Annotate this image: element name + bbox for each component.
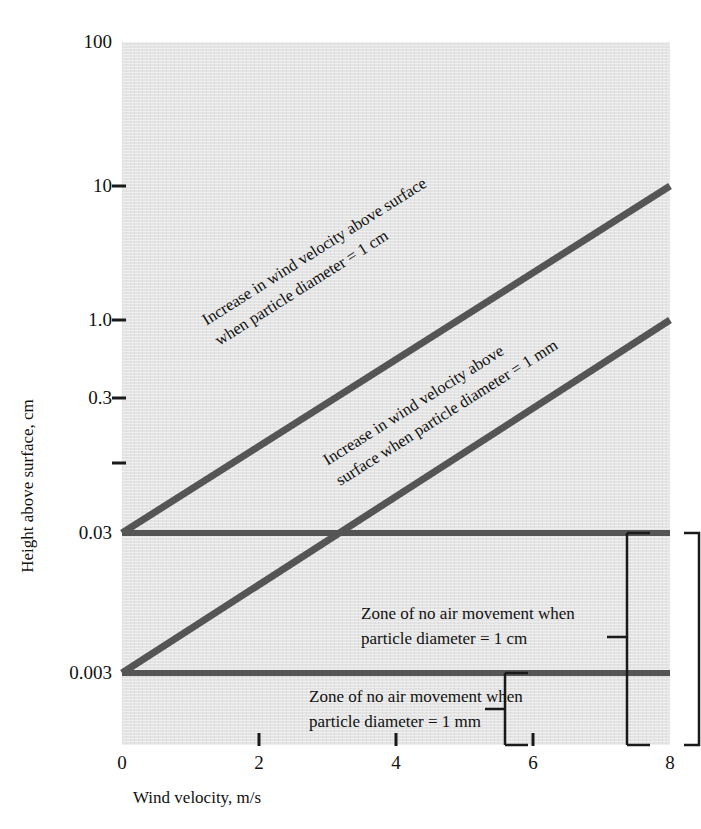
- y-tick-mark-0_3: [112, 397, 126, 400]
- x-axis-title: Wind velocity, m/s: [133, 788, 261, 808]
- annotation-zone-1mm: Zone of no air movement when particle di…: [309, 685, 523, 734]
- x-tick-label-4: 4: [391, 752, 401, 774]
- annotation-zone-1mm-line1: Zone of no air movement when: [309, 685, 523, 710]
- y-tick-label-100: 100: [84, 31, 113, 53]
- bracket-cm: [684, 533, 699, 745]
- y-tick-mark-1: [112, 319, 126, 322]
- x-tick-mark-6: [532, 733, 535, 746]
- y-axis-ticks: 100 10 1.0 0.3 0.03 0.003: [0, 0, 112, 829]
- bracket-cm-lines: [607, 533, 650, 745]
- y-tick-label-10: 10: [93, 175, 112, 197]
- x-tick-mark-4: [395, 733, 398, 746]
- x-tick-label-0: 0: [117, 752, 127, 774]
- y-tick-label-0_03: 0.03: [79, 522, 112, 544]
- y-tick-mark-10: [112, 185, 126, 188]
- chart-figure: Increase in wind velocity above surface …: [0, 0, 701, 829]
- annotation-zone-1cm-line1: Zone of no air movement when: [361, 602, 575, 627]
- y-tick-label-0_3: 0.3: [88, 387, 112, 409]
- annotation-zone-1mm-line2: particle diameter = 1 mm: [309, 710, 523, 735]
- y-tick-label-0_003: 0.003: [69, 662, 112, 684]
- plot-area: Increase in wind velocity above surface …: [122, 42, 670, 745]
- x-tick-label-8: 8: [665, 752, 675, 774]
- x-tick-label-2: 2: [254, 752, 264, 774]
- x-tick-mark-2: [258, 733, 261, 746]
- y-axis-title: Height above surface, cm: [18, 376, 38, 596]
- annotation-zone-1cm-line2: particle diameter = 1 cm: [361, 627, 575, 652]
- y-tick-label-1: 1.0: [88, 309, 112, 331]
- y-tick-mark-0_1: [112, 462, 126, 465]
- annotation-zone-1cm: Zone of no air movement when particle di…: [361, 602, 575, 651]
- x-tick-label-6: 6: [528, 752, 538, 774]
